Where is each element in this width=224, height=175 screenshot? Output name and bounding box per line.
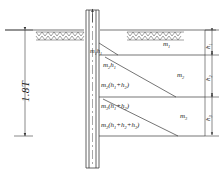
layer-dim-label-h2: h2 (205, 75, 212, 81)
soil-modulus-label-m1: m1 (163, 41, 170, 48)
pressure-label-m2-h1h2: m2(h1+h2) (101, 82, 129, 89)
ground-hatch-left (36, 32, 84, 40)
pressure-label-m3-h1h2h3: m3(h1+h2+h3) (101, 122, 139, 129)
soil-modulus-label-m2: m2 (177, 72, 184, 79)
ground-hatch-right (127, 32, 184, 40)
pressure-label-m2h1: m2h1 (103, 62, 116, 69)
soil-modulus-label-m3: m3 (180, 113, 187, 120)
diagram-canvas: 1.8T m1h1 m2h1 m2(h1+h2) m3(h1+h2) m3(h1… (0, 0, 224, 175)
layer-dim-label-h3: h3 (205, 115, 212, 121)
overall-depth-label: 1.8T (20, 81, 31, 102)
pressure-label-m3-h1h2: m3(h1+h2) (101, 103, 129, 110)
layer-dim-label-h1: h1 (205, 43, 212, 49)
pressure-label-m1h1: m1h1 (90, 48, 102, 55)
